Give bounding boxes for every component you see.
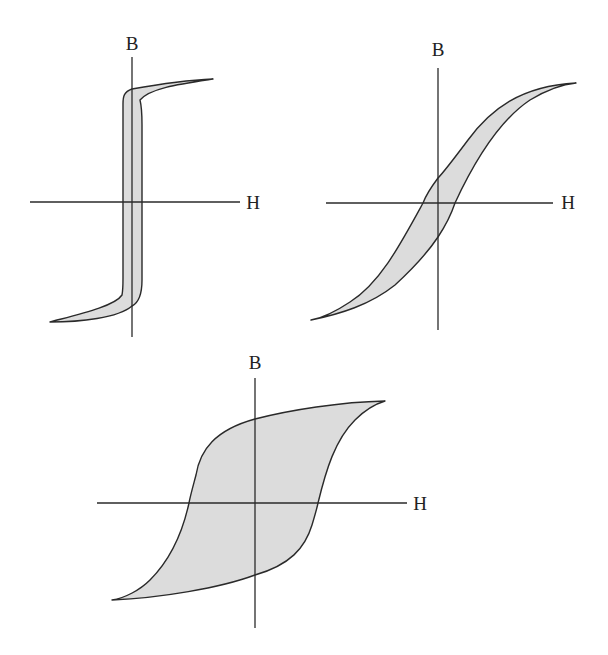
loop-1-narrow: B H xyxy=(30,33,260,337)
b-axis-label: B xyxy=(249,352,262,373)
h-axis-label: H xyxy=(413,493,427,514)
hysteresis-loop-soft xyxy=(311,83,576,320)
loop-3-wide: B H xyxy=(97,352,427,628)
hysteresis-figure: B H B H B H xyxy=(0,0,608,655)
b-axis-label: B xyxy=(126,33,139,54)
h-axis-label: H xyxy=(561,192,575,213)
h-axis-label: H xyxy=(246,192,260,213)
loop-2-soft: B H xyxy=(311,39,576,330)
b-axis-label: B xyxy=(432,39,445,60)
hysteresis-loop-wide xyxy=(112,401,385,600)
